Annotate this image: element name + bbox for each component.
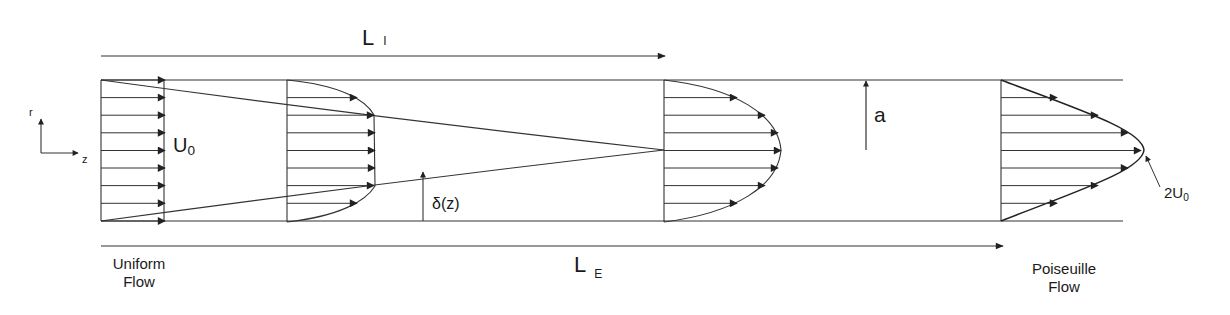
uniform-velocity-label: U0 — [173, 135, 195, 158]
poiseuille-flow-caption-line2: Flow — [1017, 278, 1111, 296]
max-velocity-label: 2U0 — [1164, 185, 1189, 203]
poiseuille-flow-caption-line1: Poiseuille — [1017, 260, 1111, 278]
boundary-layer-bottom-curve — [101, 150, 664, 221]
radius-label: a — [874, 104, 886, 125]
coordinate-axes-icon — [41, 119, 78, 153]
entrance-length-subscript: E — [594, 267, 602, 281]
uniform-velocity-profile — [101, 80, 165, 221]
poiseuille-flow-caption: Poiseuille Flow — [1017, 260, 1111, 296]
developing-profile-early — [287, 80, 375, 222]
uniform-velocity-symbol: U — [173, 134, 187, 156]
inlet-length-label: LI — [362, 27, 387, 49]
max-velocity-pointer-arrow — [1146, 156, 1160, 187]
uniform-flow-caption: Uniform Flow — [101, 255, 177, 291]
inlet-length-subscript: I — [383, 34, 386, 48]
developing-profile-late — [664, 80, 781, 222]
z-axis-label: z — [82, 154, 88, 165]
entrance-length-label: LE — [574, 254, 602, 280]
uniform-flow-caption-line1: Uniform — [101, 255, 177, 273]
inlet-length-symbol: L — [362, 25, 374, 50]
max-velocity-subscript: 0 — [1183, 192, 1189, 203]
pipe-entrance-flow-diagram: r z LI LE a δ(z) U0 2U0 Uniform Flow Poi… — [0, 0, 1230, 315]
max-velocity-symbol: 2U — [1164, 184, 1183, 201]
poiseuille-velocity-profile — [1001, 80, 1144, 221]
boundary-layer-thickness-label: δ(z) — [432, 196, 460, 212]
entrance-length-symbol: L — [574, 252, 586, 277]
uniform-velocity-subscript: 0 — [187, 143, 195, 158]
r-axis-label: r — [29, 107, 33, 118]
uniform-flow-caption-line2: Flow — [101, 273, 177, 291]
